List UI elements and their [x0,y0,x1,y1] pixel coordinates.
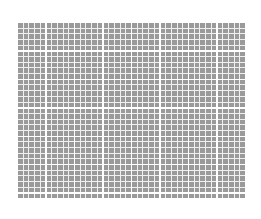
minor-gridlines [17,22,245,198]
screenshot-canvas [0,0,261,219]
major-gridlines [17,22,245,198]
grid-pattern [17,22,245,198]
